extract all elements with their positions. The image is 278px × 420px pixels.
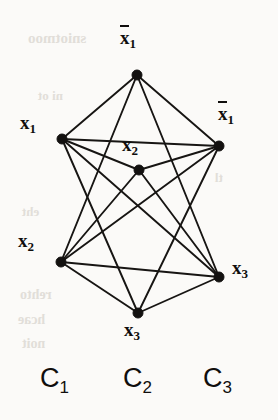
clause-label-text: C — [40, 363, 60, 393]
graph-vertex — [134, 165, 144, 175]
graph-edge — [138, 277, 219, 313]
graph-vertex — [214, 141, 224, 151]
graph-vertex — [56, 257, 66, 267]
negation-overbar — [218, 101, 227, 103]
edge-group — [61, 75, 219, 313]
vertex-group — [56, 70, 224, 318]
vertex-label-subscript: 1 — [130, 36, 137, 51]
vertex-label-base: x — [124, 320, 134, 339]
vertex-label-subscript: 3 — [242, 266, 249, 281]
vertex-label: x2 — [122, 135, 138, 154]
vertex-label: x3 — [124, 320, 140, 339]
vertex-label-base: x — [122, 135, 132, 154]
graph-edge — [138, 146, 219, 313]
graph-edge — [62, 75, 137, 139]
clause-label-c2: C2 — [123, 365, 152, 392]
vertex-label-base: x — [218, 104, 228, 123]
graph-edge — [139, 170, 219, 277]
vertex-label-subscript: 2 — [28, 239, 35, 254]
graph-vertex — [133, 308, 143, 318]
vertex-label-subscript: 1 — [228, 112, 235, 127]
negation-overbar — [120, 25, 129, 27]
clause-label-subscript: 1 — [60, 378, 69, 397]
vertex-label-subscript: 1 — [30, 121, 37, 136]
vertex-label-base: x — [232, 258, 242, 277]
clause-label-c1: C1 — [40, 365, 69, 392]
graph-edge — [62, 139, 219, 277]
graph-edge — [61, 262, 219, 277]
clause-label-c3: C3 — [203, 365, 232, 392]
vertex-label: x1 — [120, 28, 136, 47]
vertex-label-base: x — [20, 113, 30, 132]
clause-label-text: C — [123, 363, 143, 393]
vertex-label: x1 — [20, 113, 36, 132]
vertex-label-base: x — [18, 231, 28, 250]
vertex-label: x1 — [218, 104, 234, 123]
graph-vertex — [57, 134, 67, 144]
vertex-label-base: x — [120, 28, 130, 47]
clause-label-subscript: 3 — [223, 378, 232, 397]
graph-edge — [137, 75, 219, 146]
graph-edge — [62, 139, 219, 146]
vertex-label: x3 — [232, 258, 248, 277]
vertex-label-subscript: 2 — [132, 143, 139, 158]
graph-vertex — [132, 70, 142, 80]
clause-label-text: C — [203, 363, 223, 393]
vertex-label: x2 — [18, 231, 34, 250]
vertex-label-subscript: 3 — [134, 328, 141, 343]
graph-edge — [61, 170, 139, 262]
graph-canvas — [0, 0, 278, 420]
clause-label-subscript: 2 — [143, 378, 152, 397]
graph-vertex — [214, 272, 224, 282]
figure-root: sniotmooni ottlehtrehtohcaenoit x1x1x2x1… — [0, 0, 278, 420]
graph-edge — [139, 146, 219, 170]
